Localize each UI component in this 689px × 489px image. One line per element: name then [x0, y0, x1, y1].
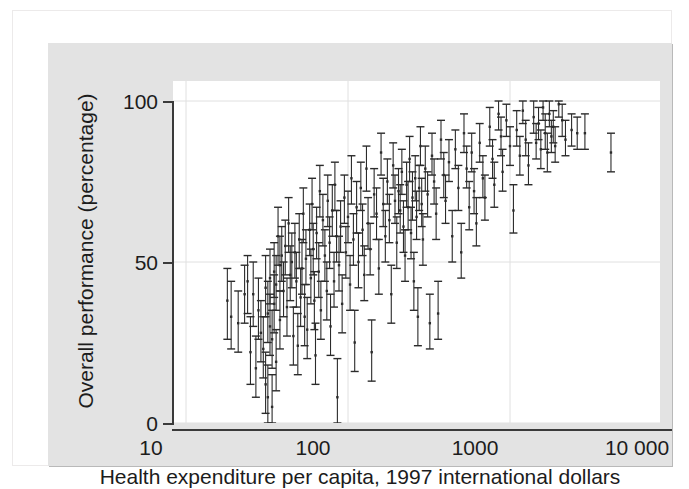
x-axis-line: [172, 429, 672, 431]
plot-area: [173, 81, 660, 423]
y-tick-mark-100: [163, 101, 173, 103]
x-tick-label-1000: 1000: [435, 437, 515, 458]
y-tick-mark-50: [163, 262, 173, 264]
scatter-plot-svg: [173, 81, 660, 423]
x-axis-title: Health expenditure per capita, 1997 inte…: [48, 465, 672, 489]
x-tick-label-10: 10: [111, 437, 191, 458]
y-tick-label-50: 50: [93, 252, 158, 273]
y-tick-label-100: 100: [93, 91, 158, 112]
x-tick-label-100: 100: [273, 437, 353, 458]
y-tick-label-0: 0: [93, 413, 158, 434]
x-tick-label-10000: 10 000: [587, 437, 687, 458]
y-axis-title: Overall performance (percentage): [74, 71, 98, 431]
y-tick-mark-0: [163, 423, 173, 425]
figure-card: 100 50 0 10 100 1000 10 000 Health expen…: [12, 10, 672, 466]
chart-panel: 100 50 0 10 100 1000 10 000 Health expen…: [48, 43, 672, 466]
